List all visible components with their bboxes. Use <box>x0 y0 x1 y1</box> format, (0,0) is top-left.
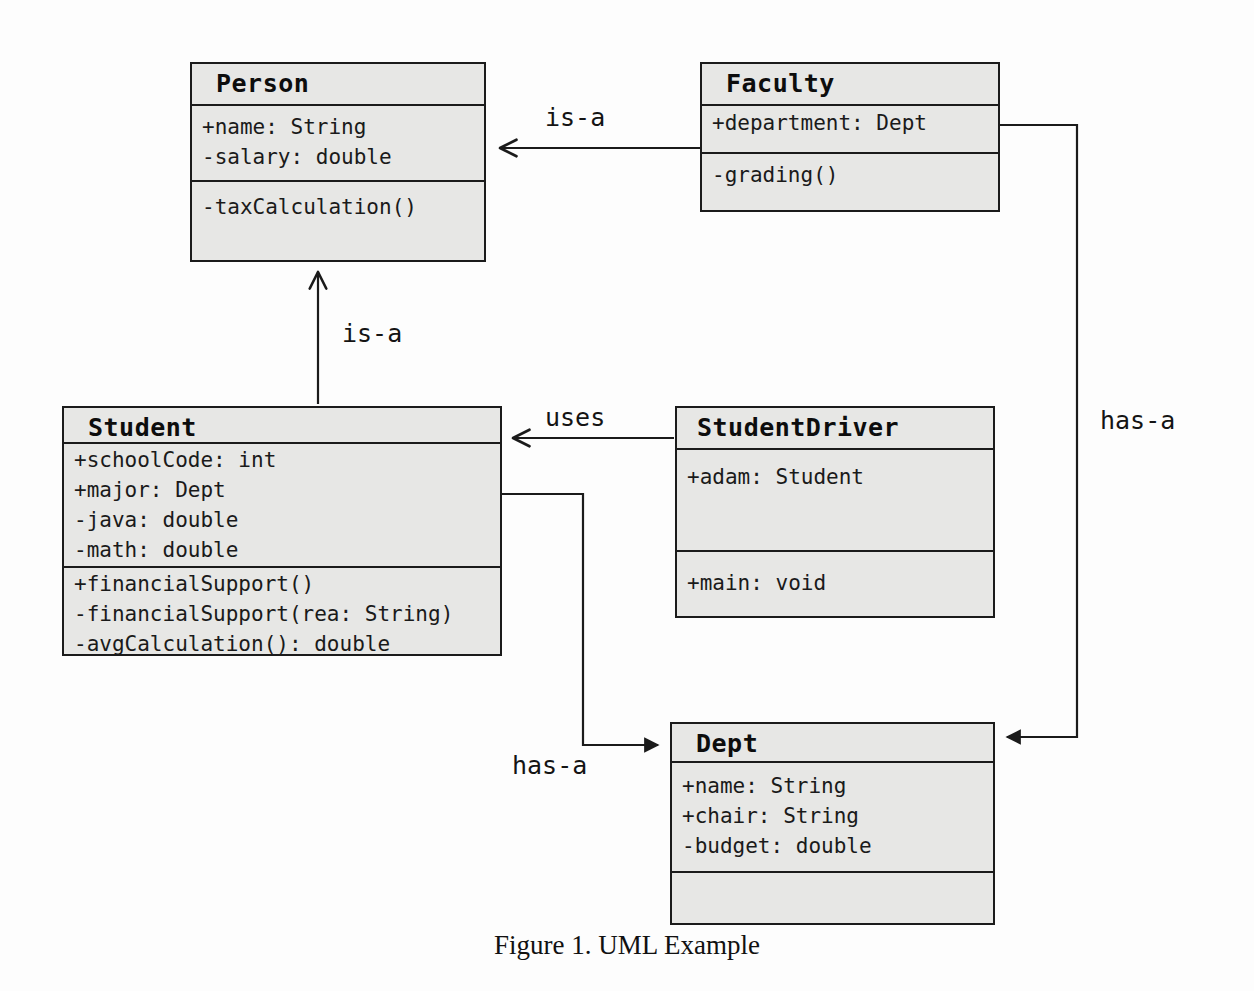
uml-diagram-canvas: Person (horizontal, arrow into Person ri… <box>0 0 1254 991</box>
attribute-row: +name: String <box>682 771 983 801</box>
class-title: Person <box>202 67 474 101</box>
attribute-row: -math: double <box>74 535 490 565</box>
methods-compartment: -taxCalculation() <box>192 180 484 260</box>
relationship-label-faculty-has-a-dept: has-a <box>1100 407 1175 435</box>
class-title: Dept <box>682 727 983 761</box>
method-row: +main: void <box>687 568 983 598</box>
methods-compartment: +main: void <box>677 550 993 616</box>
uml-class-student[interactable]: Student +schoolCode: int +major: Dept -j… <box>62 406 502 656</box>
uml-class-person[interactable]: Person +name: String -salary: double -ta… <box>190 62 486 262</box>
attributes-compartment: +name: String -salary: double <box>192 104 484 180</box>
attribute-row: +chair: String <box>682 801 983 831</box>
class-title: Faculty <box>712 67 988 101</box>
methods-compartment: -grading() <box>702 152 998 210</box>
attribute-row: -java: double <box>74 505 490 535</box>
attributes-compartment: +adam: Student <box>677 448 993 550</box>
relationship-label-studentdriver-uses-student: uses <box>545 404 605 432</box>
method-row: -taxCalculation() <box>202 192 474 222</box>
method-row: -avgCalculation(): double <box>74 629 490 654</box>
attribute-row: +major: Dept <box>74 475 490 505</box>
attribute-row: +department: Dept <box>712 108 988 138</box>
attribute-row: +schoolCode: int <box>74 445 490 475</box>
relationship-label-faculty-is-a-person: is-a <box>545 104 605 132</box>
method-row: -grading() <box>712 160 988 190</box>
relationship-label-student-is-a-person: is-a <box>342 320 402 348</box>
figure-caption: Figure 1. UML Example <box>0 930 1254 961</box>
class-name-compartment: Student <box>64 408 500 442</box>
class-name-compartment: Faculty <box>702 64 998 104</box>
uml-class-dept[interactable]: Dept +name: String +chair: String -budge… <box>670 722 995 925</box>
attribute-row: +name: String <box>202 112 474 142</box>
attributes-compartment: +name: String +chair: String -budget: do… <box>672 761 993 871</box>
class-name-compartment: StudentDriver <box>677 408 993 448</box>
attributes-compartment: +department: Dept <box>702 104 998 152</box>
uml-class-studentdriver[interactable]: StudentDriver +adam: Student +main: void <box>675 406 995 618</box>
method-row: -financialSupport(rea: String) <box>74 599 490 629</box>
attribute-row: -budget: double <box>682 831 983 861</box>
methods-compartment <box>672 871 993 923</box>
attributes-compartment: +schoolCode: int +major: Dept -java: dou… <box>64 442 500 566</box>
relationship-label-student-has-a-dept: has-a <box>512 752 587 780</box>
attribute-row: +adam: Student <box>687 462 983 492</box>
class-name-compartment: Dept <box>672 724 993 761</box>
uml-class-faculty[interactable]: Faculty +department: Dept -grading() <box>700 62 1000 212</box>
attribute-row: -salary: double <box>202 142 474 172</box>
class-title: StudentDriver <box>687 411 983 445</box>
class-title: Student <box>74 411 490 442</box>
class-name-compartment: Person <box>192 64 484 104</box>
methods-compartment: +financialSupport() -financialSupport(re… <box>64 566 500 654</box>
method-row: +financialSupport() <box>74 569 490 599</box>
